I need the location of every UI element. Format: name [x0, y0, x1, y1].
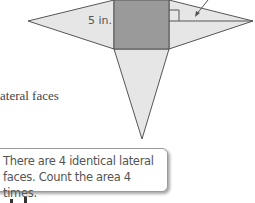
- body-text-fragment: ateral faces: [0, 88, 59, 104]
- right-lateral-face: [169, 0, 253, 49]
- cropped-text-fragment: [6, 194, 36, 203]
- square-base: [114, 0, 169, 49]
- bottom-lateral-face: [114, 49, 169, 139]
- callout-line-1: There are 4 identical lateral: [3, 153, 167, 169]
- base-side-length-label: 5 in.: [88, 14, 112, 27]
- callout-box: There are 4 identical lateral faces. Cou…: [0, 148, 168, 192]
